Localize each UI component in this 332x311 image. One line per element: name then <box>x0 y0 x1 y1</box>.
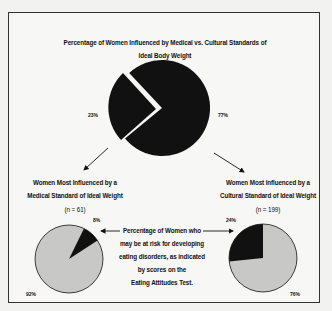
main-title-line1: Percentage of Women Influenced by Medica… <box>20 37 310 49</box>
medical-title-line2: Medical Standard of Ideal Weight <box>10 190 140 202</box>
cultural-title-line1: Women Most Influenced by a <box>210 177 326 189</box>
main-title-line2: Ideal Body Weight <box>20 50 310 62</box>
cultural-title-line2: Cultural Standard of Ideal Weight <box>210 190 326 202</box>
cultural-pie <box>229 224 297 292</box>
cultural-n-label: (n = 199) <box>210 204 326 216</box>
cultural-pie-risk-slice <box>229 224 263 262</box>
annotation-line3: eating disorders, as indicated <box>112 251 212 263</box>
medical-risk-pct: 8% <box>93 217 100 223</box>
cultural-risk-pct: 24% <box>226 217 236 223</box>
cultural-other-pct: 76% <box>290 291 300 297</box>
main-medical-pct: 23% <box>88 112 98 118</box>
medical-other-pct: 92% <box>26 291 36 297</box>
main-n-label: (n = 260) <box>20 63 310 75</box>
annotation-line4: by scores on the <box>112 264 212 276</box>
medical-title-line1: Women Most Influenced by a <box>10 177 140 189</box>
medical-n-label: (n = 61) <box>10 204 140 216</box>
annotation-line1: Percentage of Women who <box>112 225 212 237</box>
main-cultural-pct: 77% <box>218 112 228 118</box>
annotation-line5: Eating Attitudes Test. <box>112 277 212 289</box>
medical-pie <box>35 225 103 293</box>
arrow-to-cultural <box>214 153 244 172</box>
annotation-line2: may be at risk for developing <box>112 238 212 250</box>
arrow-to-medical <box>84 148 108 170</box>
